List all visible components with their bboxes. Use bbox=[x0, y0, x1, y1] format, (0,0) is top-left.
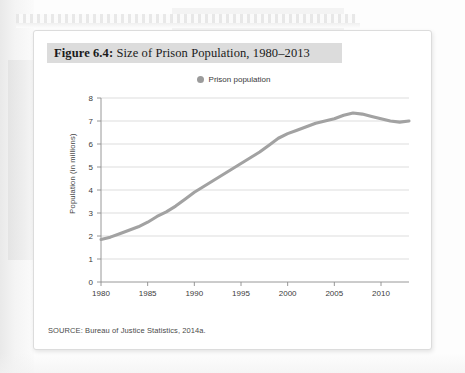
y-tick-group: 012345678 bbox=[89, 94, 101, 287]
y-axis-title: Population (in millions) bbox=[68, 114, 77, 234]
y-tick-label: 5 bbox=[89, 163, 94, 172]
y-tick-label: 1 bbox=[89, 255, 94, 264]
x-tick-label: 1980 bbox=[92, 289, 110, 298]
y-tick-label: 4 bbox=[89, 186, 94, 195]
x-tick-label: 1985 bbox=[139, 289, 157, 298]
y-tick-label: 7 bbox=[89, 117, 94, 126]
data-series-prison-population bbox=[101, 113, 409, 240]
x-tick-label: 2010 bbox=[372, 289, 390, 298]
chart-plot-area: 012345678 1980198519901995200020052010 P… bbox=[34, 31, 433, 351]
x-tick-label: 1995 bbox=[232, 289, 250, 298]
x-tick-group: 1980198519901995200020052010 bbox=[92, 282, 390, 298]
spiral-binding-texture bbox=[16, 14, 356, 23]
y-tick-label: 2 bbox=[89, 232, 94, 241]
gridlines-group bbox=[101, 98, 409, 259]
figure-card: Figure 6.4: Size of Prison Population, 1… bbox=[33, 30, 432, 350]
x-tick-label: 2005 bbox=[325, 289, 343, 298]
y-tick-label: 3 bbox=[89, 209, 94, 218]
source-note: SOURCE: Bureau of Justice Statistics, 20… bbox=[48, 326, 206, 335]
y-tick-label: 8 bbox=[89, 94, 94, 103]
y-tick-label: 6 bbox=[89, 140, 94, 149]
spiral-binding-shadow bbox=[16, 23, 360, 28]
page-bottom-shadow bbox=[0, 353, 465, 373]
page-edge-shadow-inner bbox=[8, 60, 36, 260]
x-tick-label: 2000 bbox=[279, 289, 297, 298]
x-tick-label: 1990 bbox=[185, 289, 203, 298]
line-chart-svg: 012345678 1980198519901995200020052010 bbox=[34, 31, 433, 351]
y-tick-label: 0 bbox=[89, 278, 94, 287]
